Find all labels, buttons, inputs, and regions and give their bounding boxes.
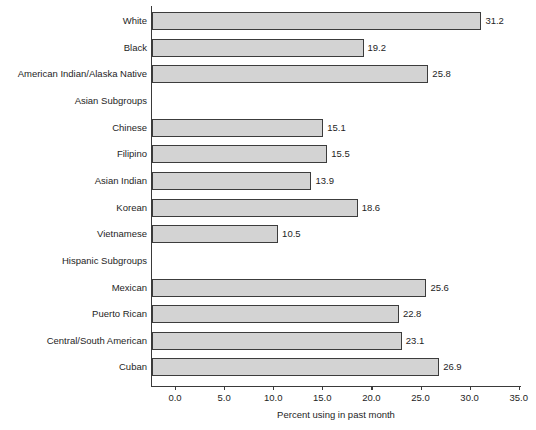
bar-value-label: 15.5 <box>331 149 350 159</box>
bar <box>152 172 311 190</box>
bar <box>152 145 327 163</box>
bar <box>152 65 428 83</box>
x-axis-tick-mark <box>273 386 274 390</box>
category-label: Hispanic Subgroups <box>0 256 147 266</box>
category-label: Cuban <box>0 362 147 372</box>
bar <box>152 39 364 57</box>
category-label: Asian Indian <box>0 176 147 186</box>
category-label: American Indian/Alaska Native <box>0 69 147 79</box>
bar-value-label: 18.6 <box>362 203 381 213</box>
bar-value-label: 31.2 <box>485 16 504 26</box>
x-axis-tick-label: 25.0 <box>411 392 430 403</box>
category-label: Filipino <box>0 149 147 159</box>
x-axis-tick-label: 30.0 <box>460 392 479 403</box>
x-axis-tick-mark <box>224 386 225 390</box>
x-axis-tick-mark <box>371 386 372 390</box>
bar <box>152 332 402 350</box>
bar-value-label: 19.2 <box>368 43 387 53</box>
x-axis-tick-mark <box>470 386 471 390</box>
category-label: White <box>0 16 147 26</box>
x-axis-tick-mark <box>175 386 176 390</box>
bar-value-label: 15.1 <box>327 123 346 133</box>
bar-value-label: 10.5 <box>282 229 301 239</box>
bar <box>152 279 426 297</box>
bar-value-label: 13.9 <box>315 176 334 186</box>
bar-value-label: 22.8 <box>403 309 422 319</box>
x-axis-line <box>151 386 521 387</box>
x-axis-tick-label: 10.0 <box>264 392 283 403</box>
bar-value-label: 25.6 <box>430 283 449 293</box>
x-axis-tick-mark <box>519 386 520 390</box>
x-axis-tick-label: 5.0 <box>217 392 230 403</box>
bar <box>152 12 481 30</box>
category-label: Asian Subgroups <box>0 96 147 106</box>
bar <box>152 225 278 243</box>
y-axis-line <box>151 6 152 387</box>
x-axis-tick-mark <box>421 386 422 390</box>
x-axis-tick-label: 20.0 <box>362 392 381 403</box>
x-axis-title: Percent using in past month <box>151 409 521 420</box>
bar <box>152 199 358 217</box>
category-label: Vietnamese <box>0 229 147 239</box>
category-label: Chinese <box>0 123 147 133</box>
category-label: Central/South American <box>0 336 147 346</box>
bar-value-label: 25.8 <box>432 69 451 79</box>
bar-chart: White31.2Black19.2American Indian/Alaska… <box>0 0 536 430</box>
bar-value-label: 26.9 <box>443 362 462 372</box>
category-label: Korean <box>0 203 147 213</box>
category-label: Black <box>0 43 147 53</box>
x-axis-tick-label: 35.0 <box>509 392 528 403</box>
x-axis-tick-label: 0.0 <box>168 392 181 403</box>
category-label: Mexican <box>0 283 147 293</box>
bar <box>152 305 399 323</box>
bar <box>152 358 439 376</box>
x-axis-tick-label: 15.0 <box>313 392 332 403</box>
x-axis-tick-mark <box>322 386 323 390</box>
bar-value-label: 23.1 <box>406 336 425 346</box>
category-label: Puerto Rican <box>0 309 147 319</box>
bar <box>152 119 323 137</box>
